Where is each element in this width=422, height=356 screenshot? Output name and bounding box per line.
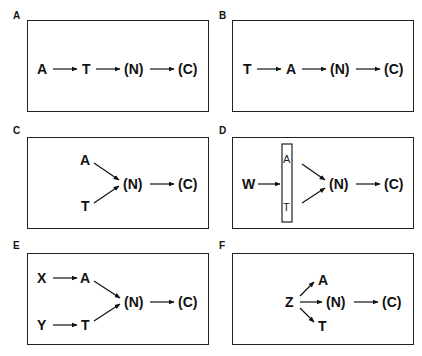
node-c: (C) bbox=[178, 61, 197, 77]
node-x: X bbox=[37, 270, 47, 286]
node-n: (N) bbox=[326, 294, 345, 310]
edge-arrow bbox=[94, 163, 119, 180]
edge-arrow bbox=[300, 308, 314, 322]
node-c: (C) bbox=[382, 294, 401, 310]
panel-f-graph: Z A (N) T (C) bbox=[285, 272, 401, 334]
node-t: T bbox=[82, 61, 91, 77]
node-c: (C) bbox=[384, 61, 403, 77]
node-w: W bbox=[242, 176, 256, 192]
node-n: (N) bbox=[124, 294, 143, 310]
node-a: A bbox=[80, 270, 90, 286]
node-a: A bbox=[318, 272, 328, 288]
diagram-canvas: A T (N) (C) T A (N) (C) A T (N) (C) W A … bbox=[0, 0, 422, 356]
node-n: (N) bbox=[123, 176, 142, 192]
panel-d-graph: W A T (N) (C) bbox=[242, 144, 403, 222]
edge-arrow bbox=[94, 281, 120, 298]
node-c: (C) bbox=[384, 176, 403, 192]
edge-arrow bbox=[302, 164, 325, 180]
node-t: T bbox=[243, 61, 252, 77]
node-c: (C) bbox=[178, 294, 197, 310]
node-t: T bbox=[283, 201, 290, 213]
node-y: Y bbox=[37, 317, 47, 333]
edge-arrow bbox=[94, 304, 120, 321]
node-t: T bbox=[81, 317, 90, 333]
node-t: T bbox=[318, 318, 327, 334]
node-t: T bbox=[81, 198, 90, 214]
edge-arrow bbox=[300, 282, 314, 296]
node-z: Z bbox=[285, 294, 294, 310]
node-a: A bbox=[37, 61, 47, 77]
edge-arrow bbox=[94, 186, 119, 203]
node-n: (N) bbox=[124, 61, 143, 77]
panel-e-graph: X A Y T (N) (C) bbox=[37, 270, 197, 333]
panel-b-graph: T A (N) (C) bbox=[243, 61, 403, 77]
panel-c-graph: A T (N) (C) bbox=[80, 152, 197, 214]
node-a: A bbox=[80, 152, 90, 168]
panel-a-graph: A T (N) (C) bbox=[37, 61, 197, 77]
node-n: (N) bbox=[329, 176, 348, 192]
node-a: A bbox=[286, 61, 296, 77]
edge-arrow bbox=[302, 188, 325, 203]
node-a: A bbox=[283, 153, 291, 165]
node-n: (N) bbox=[330, 61, 349, 77]
node-c: (C) bbox=[178, 176, 197, 192]
